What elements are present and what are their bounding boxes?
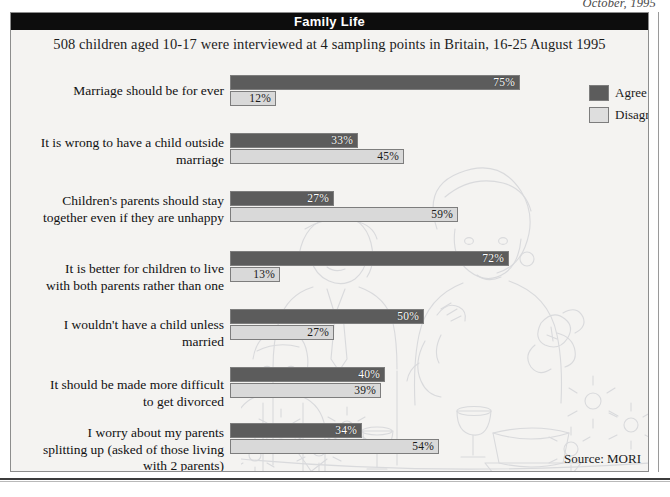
bar-value-label: 59%: [431, 209, 457, 221]
row-label: Marriage should be for ever: [17, 83, 224, 100]
bar-agree: 72%: [230, 251, 509, 266]
bar-agree: 34%: [230, 423, 362, 438]
bar-disagree: 27%: [230, 325, 334, 340]
row-bars: 50%27%: [230, 309, 424, 340]
bar-value-label: 13%: [253, 269, 279, 281]
bar-value-label: 72%: [482, 253, 508, 265]
row-label-line: married: [17, 334, 224, 351]
legend-swatch-agree: [589, 85, 609, 101]
row-bars: 33%45%: [230, 133, 404, 164]
row-bars: 40%39%: [230, 367, 385, 398]
row-bars: 75%12%: [230, 75, 520, 106]
bar-value-label: 27%: [307, 327, 333, 339]
bar-disagree: 59%: [230, 207, 458, 222]
chart-legend: Agree Disagree: [589, 85, 649, 129]
bar-disagree: 13%: [230, 267, 280, 282]
row-label: Children's parents should staytogether e…: [17, 193, 224, 226]
legend-item-agree: Agree: [589, 85, 649, 101]
bar-value-label: 40%: [358, 369, 384, 381]
bar-agree: 50%: [230, 309, 424, 324]
row-label-line: marriage: [17, 152, 224, 169]
row-label-line: to get divorced: [17, 394, 224, 411]
row-label-line: I worry about my parents: [17, 425, 224, 442]
bar-value-label: 54%: [412, 441, 438, 453]
row-label: I wouldn't have a child unlessmarried: [17, 317, 224, 350]
legend-item-disagree: Disagree: [589, 107, 649, 123]
bar-agree: 27%: [230, 191, 334, 206]
publication-date: October, 1995: [583, 0, 656, 11]
bar-value-label: 12%: [249, 93, 275, 105]
bar-agree: 40%: [230, 367, 385, 382]
bar-value-label: 45%: [377, 151, 403, 163]
chart-panel: Family Life 508 children aged 10-17 were…: [10, 12, 649, 472]
bottom-rule: [0, 478, 670, 480]
row-label: It is better for children to livewith bo…: [17, 261, 224, 294]
chart-subtitle: 508 children aged 10-17 were interviewed…: [11, 30, 648, 57]
row-bars: 34%54%: [230, 423, 439, 454]
bar-agree: 33%: [230, 133, 358, 148]
legend-label-agree: Agree: [615, 85, 647, 101]
row-label-line: with 2 parents): [17, 458, 224, 472]
outer-rule-right: [658, 12, 659, 472]
bar-value-label: 33%: [331, 135, 357, 147]
bar-value-label: 27%: [307, 193, 333, 205]
row-label: It should be made more difficultto get d…: [17, 377, 224, 410]
row-label-line: together even if they are unhappy: [17, 210, 224, 227]
page-title: Family Life: [294, 15, 365, 28]
row-bars: 27%59%: [230, 191, 458, 222]
bar-value-label: 39%: [354, 385, 380, 397]
bar-disagree: 45%: [230, 149, 404, 164]
bar-disagree: 12%: [230, 91, 276, 106]
bar-disagree: 54%: [230, 439, 439, 454]
row-label: It is wrong to have a child outsidemarri…: [17, 135, 224, 168]
bar-chart-plot-area: Marriage should be for ever75%12%It is w…: [11, 61, 649, 472]
row-label-line: splitting up (asked of those living: [17, 442, 224, 459]
row-label-line: It should be made more difficult: [17, 377, 224, 394]
row-label-line: It is better for children to live: [17, 261, 224, 278]
row-label-line: Children's parents should stay: [17, 193, 224, 210]
bottom-rule-secondary: [0, 481, 670, 482]
chart-title-bar: Family Life: [11, 13, 648, 30]
source-note: Source: MORI: [564, 451, 641, 467]
row-label-line: It is wrong to have a child outside: [17, 135, 224, 152]
bar-agree: 75%: [230, 75, 520, 90]
bar-value-label: 34%: [335, 425, 361, 437]
row-label: I worry about my parentssplitting up (as…: [17, 425, 224, 472]
legend-swatch-disagree: [589, 107, 609, 123]
bar-value-label: 75%: [493, 77, 519, 89]
page-root: October, 1995 Family Life 508 children a…: [0, 0, 670, 497]
row-bars: 72%13%: [230, 251, 509, 282]
row-label-line: Marriage should be for ever: [17, 83, 224, 100]
bar-disagree: 39%: [230, 383, 381, 398]
legend-label-disagree: Disagree: [615, 107, 649, 123]
row-label-line: I wouldn't have a child unless: [17, 317, 224, 334]
row-label-line: with both parents rather than one: [17, 278, 224, 295]
bar-value-label: 50%: [397, 311, 423, 323]
